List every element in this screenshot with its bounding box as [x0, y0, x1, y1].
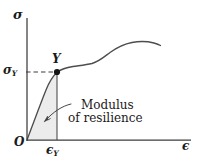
- modulus-of-resilience-annotation: Modulusof resilience: [68, 99, 143, 126]
- yield-strain-subscript: Y: [53, 149, 58, 158]
- origin-label: O: [14, 136, 24, 148]
- stress-strain-figure: σ ϵ σY ϵY Y O Modulusof resilience: [0, 0, 208, 167]
- yield-point-label: Y: [52, 53, 61, 65]
- yield-stress-tick-label: σY: [3, 64, 17, 78]
- y-axis-label-sigma: σ: [13, 8, 23, 21]
- yield-point-marker: [54, 69, 60, 75]
- yield-stress-subscript: Y: [12, 69, 17, 78]
- figure-canvas: [0, 0, 208, 167]
- annotation-line-1: Modulus: [68, 99, 143, 112]
- annotation-line-2: of resilience: [68, 112, 143, 125]
- yield-strain-tick-label: ϵY: [46, 144, 59, 158]
- yield-stress-symbol: σ: [3, 63, 12, 77]
- x-axis-label-epsilon: ϵ: [182, 140, 189, 152]
